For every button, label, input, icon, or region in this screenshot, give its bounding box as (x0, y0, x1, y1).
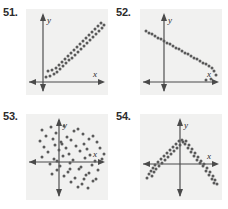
data-point (55, 132, 58, 135)
data-point (99, 147, 102, 150)
data-point (98, 30, 101, 33)
data-point (80, 166, 83, 169)
data-point (47, 151, 50, 154)
data-point (208, 65, 211, 68)
data-point (84, 157, 87, 160)
data-point (103, 24, 106, 27)
data-point (182, 141, 185, 144)
data-point (67, 171, 70, 174)
data-point (191, 148, 194, 151)
data-point (175, 47, 178, 50)
data-point (86, 148, 89, 151)
data-point (50, 126, 53, 129)
data-point (63, 175, 66, 178)
data-point (59, 68, 62, 71)
data-point (205, 79, 208, 82)
x-axis-arrow-left (143, 79, 150, 85)
data-point (151, 33, 154, 36)
exercise-54: 54.xy (0, 0, 228, 209)
data-point (88, 138, 91, 141)
data-point (94, 160, 97, 163)
data-point (77, 51, 80, 54)
x-axis-label: x (92, 69, 97, 79)
data-point (176, 147, 179, 150)
data-point (74, 177, 77, 180)
scatter-plot-svg: xy (140, 9, 222, 95)
data-point (153, 171, 156, 174)
data-point (158, 165, 161, 168)
data-point (197, 156, 200, 159)
y-axis-arrow-up (161, 13, 167, 21)
data-point (205, 63, 208, 66)
data-point (202, 165, 205, 168)
data-point (178, 140, 181, 143)
data-point (56, 71, 59, 74)
data-point (55, 67, 58, 70)
data-point (181, 50, 184, 53)
x-axis-arrow-left (29, 159, 36, 165)
x-axis-arrow-right (98, 159, 105, 165)
data-point (155, 168, 158, 171)
data-point (164, 159, 167, 162)
scatter-plot-panel: xy (26, 114, 108, 200)
data-point (53, 73, 56, 76)
data-point (66, 136, 69, 139)
data-point-group (39, 125, 106, 190)
data-point (213, 182, 216, 185)
data-point (68, 59, 71, 62)
data-point (72, 159, 75, 162)
data-point (188, 144, 191, 147)
data-point (64, 58, 67, 61)
data-point (86, 42, 89, 45)
data-point (83, 143, 86, 146)
data-point (89, 154, 92, 157)
data-point (91, 164, 94, 167)
y-axis-label: y (167, 15, 172, 25)
data-point (78, 168, 81, 171)
data-point (58, 149, 61, 152)
data-point (89, 39, 92, 42)
data-point (70, 52, 73, 55)
data-point (196, 159, 199, 162)
data-point (95, 178, 98, 181)
data-point (73, 130, 76, 133)
x-axis-arrow-left (29, 79, 36, 85)
data-point (70, 181, 73, 184)
data-point (175, 143, 178, 146)
data-point (185, 140, 188, 143)
data-point (172, 146, 175, 149)
data-point (166, 42, 169, 45)
data-point (103, 153, 106, 156)
y-axis-arrow-down (161, 84, 167, 92)
data-point (193, 155, 196, 158)
data-point (213, 70, 216, 73)
x-axis-arrow-right (98, 79, 105, 85)
data-point (65, 62, 68, 65)
data-point (54, 144, 57, 147)
data-point-group (146, 139, 219, 186)
data-point (81, 183, 84, 186)
scatter-plot-svg: xy (140, 114, 222, 200)
data-point (53, 158, 56, 161)
data-point (167, 156, 170, 159)
data-point (187, 53, 190, 56)
data-point (80, 48, 83, 51)
data-point (51, 69, 54, 72)
data-point (71, 57, 74, 60)
data-point (146, 177, 149, 180)
data-point (49, 75, 52, 78)
exercise-number-label: 54. (116, 110, 131, 122)
data-point (199, 162, 202, 165)
data-point (148, 32, 151, 35)
scatter-plot-panel: xy (140, 114, 222, 200)
data-point (67, 55, 70, 58)
data-point (83, 45, 86, 48)
data-point (75, 145, 78, 148)
data-point (169, 149, 172, 152)
data-point (212, 175, 215, 178)
exercise-52: 52.xy (0, 0, 228, 209)
exercise-51: 51.xy (0, 0, 228, 209)
data-point (154, 164, 157, 167)
data-point (196, 58, 199, 61)
data-point (97, 25, 100, 28)
